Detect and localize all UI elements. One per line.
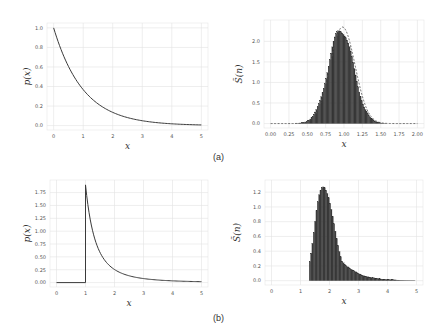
y-tick-label: 1.2 xyxy=(253,189,261,195)
histogram-bar xyxy=(334,37,335,124)
histogram-bar xyxy=(364,276,365,281)
histogram-bar xyxy=(351,56,352,123)
x-tick-label: 4 xyxy=(171,290,174,296)
x-tick-label: 0 xyxy=(270,288,273,294)
x-tick-label: 1 xyxy=(84,290,87,296)
histogram-bar xyxy=(321,188,322,281)
y-tick-label: 0.4 xyxy=(35,83,43,89)
histogram-bar xyxy=(340,32,341,124)
y-tick-label: 0.2 xyxy=(253,263,261,269)
histogram-bar xyxy=(395,280,396,281)
x-tick-label: 1.75 xyxy=(393,131,404,137)
histogram-bar xyxy=(307,121,308,124)
histogram-bar xyxy=(388,280,389,281)
x-tick-label: 1.00 xyxy=(338,131,349,137)
x-tick-label: 5 xyxy=(415,288,418,294)
histogram-bar xyxy=(356,81,357,123)
histogram-bar xyxy=(365,110,366,124)
histogram-bar xyxy=(348,268,349,281)
x-axis-label: x xyxy=(341,296,346,306)
histogram-bar xyxy=(333,224,334,281)
histogram-bar xyxy=(359,274,360,281)
plot-area xyxy=(50,180,208,287)
histogram-bar xyxy=(390,280,391,281)
histogram-bar xyxy=(349,47,350,124)
y-tick-label: 0.25 xyxy=(35,267,46,273)
histogram-bar xyxy=(321,97,322,124)
y-axis-label: S̃(n) xyxy=(231,223,242,242)
histogram-bar xyxy=(357,273,358,280)
histogram-bar xyxy=(375,278,376,281)
x-tick-label: 2 xyxy=(328,288,331,294)
histogram-bar xyxy=(371,277,372,280)
histogram-bar xyxy=(357,87,358,124)
histogram-bar xyxy=(335,34,336,124)
histogram-bar xyxy=(344,36,345,124)
histogram-bar xyxy=(316,109,317,123)
histogram-bar xyxy=(379,279,380,281)
histogram-bar xyxy=(333,41,334,123)
histogram-bar xyxy=(339,251,340,280)
histogram-bar xyxy=(331,209,332,280)
x-tick-label: 2.00 xyxy=(412,131,423,137)
histogram-bar xyxy=(386,279,387,280)
histogram-bar xyxy=(316,211,317,281)
histogram-bar xyxy=(310,119,311,124)
histogram-bar xyxy=(375,121,376,123)
chart-a-left: 0123450.00.20.40.60.81.0xp(x) xyxy=(0,0,220,160)
caption-a: (a) xyxy=(213,152,224,162)
x-tick-label: 0.50 xyxy=(302,131,313,137)
histogram-bar xyxy=(345,266,346,281)
histogram-bar xyxy=(337,32,338,124)
histogram-bar xyxy=(374,278,375,281)
histogram-bar xyxy=(311,253,312,281)
histogram-bar xyxy=(372,278,373,281)
histogram-bar xyxy=(340,257,341,281)
x-tick-label: 3 xyxy=(142,290,145,296)
histogram-bar xyxy=(363,276,364,281)
x-tick-label: 4 xyxy=(386,288,389,294)
y-tick-label: 0.6 xyxy=(35,64,43,70)
histogram-bar xyxy=(315,112,316,124)
y-tick-label: 0.2 xyxy=(35,103,43,109)
histogram-bar xyxy=(384,279,385,280)
histogram-bar xyxy=(326,78,327,123)
histogram-bar xyxy=(319,195,320,281)
y-tick-label: 1.50 xyxy=(35,202,46,208)
histogram-bar xyxy=(349,268,350,280)
caption-b: (b) xyxy=(213,313,224,323)
y-tick-label: 0.00 xyxy=(35,279,46,285)
histogram-bar xyxy=(367,114,368,124)
y-tick-label: 0.0 xyxy=(252,120,260,126)
histogram-bar xyxy=(343,34,344,123)
histogram-bar xyxy=(362,275,363,281)
x-tick-label: 0.75 xyxy=(320,131,331,137)
y-tick-label: 2.0 xyxy=(252,38,260,44)
chart-b-right: 0123450.00.20.40.60.81.01.2xS̃(n) xyxy=(220,170,439,315)
y-axis-label: p(x) xyxy=(22,67,32,85)
y-tick-label: 1.5 xyxy=(252,59,260,65)
histogram-bar xyxy=(348,43,349,124)
x-tick-label: 4 xyxy=(170,133,173,139)
x-axis-label: x xyxy=(341,139,346,149)
y-tick-label: 0.8 xyxy=(253,218,261,224)
histogram-bar xyxy=(380,279,381,281)
histogram-bar xyxy=(355,75,356,124)
histogram-bar xyxy=(364,107,365,124)
x-tick-label: 5 xyxy=(200,290,203,296)
histogram-bar xyxy=(332,216,333,280)
histogram-bar xyxy=(323,187,324,281)
x-tick-label: 2 xyxy=(111,133,114,139)
histogram-bar xyxy=(387,280,388,281)
y-tick-label: 0.50 xyxy=(35,254,46,260)
histogram-bar xyxy=(337,245,338,280)
y-tick-label: 0.0 xyxy=(253,277,261,283)
x-tick-label: 1 xyxy=(299,288,302,294)
histogram-bar xyxy=(361,101,362,124)
histogram-bar xyxy=(360,97,361,124)
histogram-bar xyxy=(351,269,352,280)
histogram-bar xyxy=(378,123,379,124)
histogram-bar xyxy=(370,117,371,123)
histogram-bar xyxy=(350,51,351,123)
histogram-bar xyxy=(352,270,353,281)
